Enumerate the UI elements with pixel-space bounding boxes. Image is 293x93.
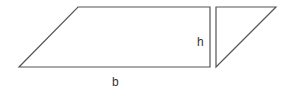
base-label: b — [112, 75, 119, 89]
parallelogram-area-diagram: h b — [0, 0, 293, 93]
triangle-shape — [216, 7, 276, 67]
parallelogram-shape — [19, 7, 210, 67]
height-label: h — [197, 35, 204, 49]
